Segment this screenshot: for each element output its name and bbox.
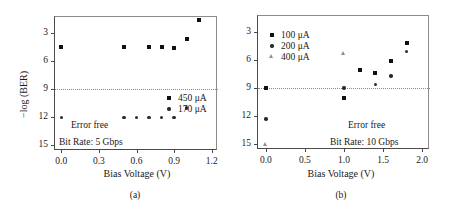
legend-marker-square-icon xyxy=(167,96,171,100)
figure-ber-vs-bias-voltage: −log (BER) 0.00.30.60.91.23691215Error f… xyxy=(0,0,452,208)
x-tick-mark xyxy=(137,149,138,153)
legend-marker-circle-icon xyxy=(270,44,273,47)
data-point xyxy=(60,116,63,119)
x-tick-label: 0.9 xyxy=(162,157,186,167)
data-point xyxy=(160,116,163,119)
x-axis-title-a: Bias Voltage (V) xyxy=(62,168,212,179)
y-tick-mark xyxy=(254,116,258,117)
x-tick-label: 1.2 xyxy=(200,157,224,167)
panel-caption-b: (b) xyxy=(321,190,361,200)
error-free-annotation: Error free xyxy=(71,120,108,130)
error-free-reference-line xyxy=(55,89,218,90)
panel-a: −log (BER) 0.00.30.60.91.23691215Error f… xyxy=(0,0,226,208)
y-tick-label: 6 xyxy=(32,56,48,66)
plot-frame-a: 0.00.30.60.91.23691215Error freeBit Rate… xyxy=(54,16,217,150)
x-tick-mark xyxy=(266,148,267,152)
y-tick-label: 3 xyxy=(32,28,48,38)
legend-marker-triangle-icon xyxy=(269,54,273,58)
legend-label: 100 μA xyxy=(281,30,310,41)
data-point xyxy=(147,116,150,119)
plot-frame-b: 0.00.51.01.52.03691215Error freeBit Rate… xyxy=(257,15,429,149)
y-tick-label: 15 xyxy=(235,139,251,149)
y-tick-mark xyxy=(254,144,258,145)
x-tick-label: 0.3 xyxy=(87,157,111,167)
data-point xyxy=(264,117,267,120)
y-axis-title-a: −log (BER) xyxy=(18,71,29,118)
x-tick-mark xyxy=(212,149,213,153)
x-tick-label: 1.0 xyxy=(332,156,356,166)
plot-area-b: 0.00.51.01.52.03691215Error freeBit Rate… xyxy=(258,16,428,148)
error-free-annotation: Error free xyxy=(348,120,385,130)
bit-rate-annotation: Bit Rate: 10 Gbps xyxy=(330,137,398,147)
data-point xyxy=(341,51,345,55)
panel-caption-a: (a) xyxy=(115,190,155,200)
legend-label: 400 μA xyxy=(281,52,310,63)
legend-marker-circle-icon xyxy=(167,107,170,110)
x-tick-mark xyxy=(344,148,345,152)
data-point xyxy=(342,96,346,100)
y-tick-label: 9 xyxy=(235,83,251,93)
data-point xyxy=(122,45,126,49)
data-point xyxy=(373,71,377,75)
data-point xyxy=(172,116,175,119)
data-point xyxy=(405,41,409,45)
x-tick-mark xyxy=(305,148,306,152)
legend-label: 450 μA xyxy=(178,93,207,104)
data-point xyxy=(160,45,164,49)
y-tick-mark xyxy=(51,117,55,118)
y-tick-mark xyxy=(254,32,258,33)
data-point xyxy=(135,116,138,119)
x-tick-label: 2.0 xyxy=(410,156,434,166)
panel-b: 0.00.51.01.52.03691215Error freeBit Rate… xyxy=(226,0,452,208)
data-point xyxy=(147,45,151,49)
legend-label: 200 μA xyxy=(281,41,310,52)
x-tick-label: 0.0 xyxy=(49,157,73,167)
data-point xyxy=(264,86,268,90)
x-tick-label: 0.6 xyxy=(125,157,149,167)
data-point xyxy=(358,68,362,72)
data-point xyxy=(122,116,125,119)
x-axis-title-b: Bias Voltage (V) xyxy=(266,168,416,179)
y-tick-label: 12 xyxy=(235,111,251,121)
y-tick-mark xyxy=(51,145,55,146)
x-tick-mark xyxy=(422,148,423,152)
x-tick-mark xyxy=(383,148,384,152)
data-point xyxy=(342,86,345,89)
data-point xyxy=(263,142,267,146)
data-point xyxy=(59,45,63,49)
plot-area-a: 0.00.30.60.91.23691215Error freeBit Rate… xyxy=(55,17,216,149)
y-tick-mark xyxy=(51,33,55,34)
legend-label: 170 μA xyxy=(178,104,207,115)
data-point xyxy=(172,46,176,50)
x-tick-mark xyxy=(61,149,62,153)
data-point xyxy=(389,59,393,63)
data-point xyxy=(185,37,189,41)
x-tick-label: 1.5 xyxy=(371,156,395,166)
y-tick-label: 12 xyxy=(32,112,48,122)
data-point xyxy=(374,83,377,86)
y-tick-mark xyxy=(51,61,55,62)
data-point xyxy=(197,18,201,22)
y-tick-label: 6 xyxy=(235,55,251,65)
y-tick-label: 15 xyxy=(32,140,48,150)
legend-marker-square-icon xyxy=(270,33,274,37)
x-tick-mark xyxy=(174,149,175,153)
bit-rate-annotation: Bit Rate: 5 Gbps xyxy=(59,137,123,147)
y-tick-label: 9 xyxy=(32,84,48,94)
x-tick-label: 0.0 xyxy=(254,156,278,166)
y-tick-label: 3 xyxy=(235,27,251,37)
x-tick-label: 0.5 xyxy=(293,156,317,166)
data-point xyxy=(405,50,408,53)
y-tick-mark xyxy=(254,60,258,61)
x-tick-mark xyxy=(99,149,100,153)
data-point xyxy=(389,74,392,77)
